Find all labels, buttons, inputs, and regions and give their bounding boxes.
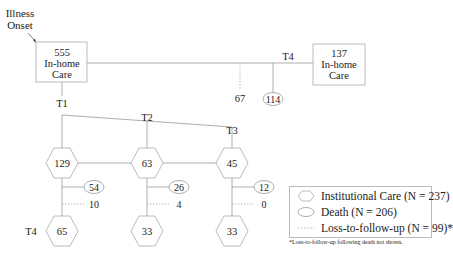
t4-bottom-label: T4 xyxy=(25,226,37,237)
top-death-count: 114 xyxy=(266,94,281,105)
ellipse-icon xyxy=(297,206,315,218)
end-box-in-home-care: 137 In-home Care xyxy=(313,44,365,85)
legend: Institutional Care (N = 237) Death (N = … xyxy=(289,186,432,238)
svg-text:33: 33 xyxy=(227,226,238,237)
svg-text:In-home: In-home xyxy=(321,59,357,70)
svg-text:129: 129 xyxy=(54,158,70,169)
t4-top-label: T4 xyxy=(282,51,294,62)
svg-text:4: 4 xyxy=(177,199,182,210)
legend-item-death: Death (N = 206) xyxy=(290,206,397,218)
svg-text:26: 26 xyxy=(174,182,184,193)
legend-item-institutional: Institutional Care (N = 237) xyxy=(290,190,450,202)
hexagon-icon xyxy=(297,190,315,202)
svg-text:0: 0 xyxy=(262,199,267,210)
legend-footnote: *Loss-to-follow-up following death not s… xyxy=(289,239,403,245)
svg-text:63: 63 xyxy=(142,158,153,169)
svg-text:In-home: In-home xyxy=(44,58,80,69)
top-loss-count: 67 xyxy=(235,93,246,104)
svg-text:33: 33 xyxy=(142,226,153,237)
start-box-in-home-care: 555 In-home Care xyxy=(36,42,87,82)
svg-text:65: 65 xyxy=(57,226,68,237)
svg-text:555: 555 xyxy=(54,47,70,58)
svg-text:45: 45 xyxy=(227,158,238,169)
svg-text:Illness: Illness xyxy=(6,7,35,19)
dotted-line-icon xyxy=(297,222,315,234)
institutional-column-t3: 45 12 0 33 xyxy=(216,148,274,246)
svg-text:54: 54 xyxy=(89,182,99,193)
svg-text:Onset: Onset xyxy=(7,19,33,31)
t1-label: T1 xyxy=(56,98,68,109)
svg-text:12: 12 xyxy=(259,182,269,193)
svg-text:137: 137 xyxy=(331,48,347,59)
illness-onset-label: Illness Onset xyxy=(6,7,35,31)
svg-text:Care: Care xyxy=(52,69,72,80)
legend-item-loss: Loss-to-follow-up (N = 99)* xyxy=(290,222,453,234)
svg-text:Care: Care xyxy=(329,70,349,81)
svg-text:10: 10 xyxy=(89,199,99,210)
